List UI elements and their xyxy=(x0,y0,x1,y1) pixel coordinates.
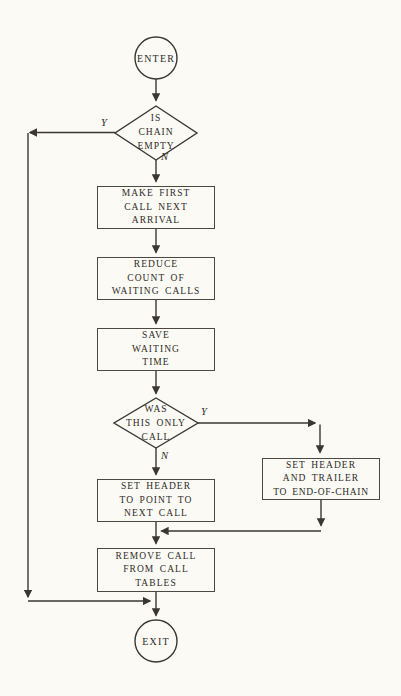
decision-line: CHAIN xyxy=(138,125,173,139)
process-line: SET HEADER xyxy=(286,459,356,473)
decision-chain-empty: IS CHAIN EMPTY xyxy=(114,106,198,158)
decision-line: WAS xyxy=(144,402,167,416)
process-line: TABLES xyxy=(135,577,176,591)
process-line: SAVE xyxy=(142,329,170,343)
process-line: REDUCE xyxy=(134,258,178,272)
process-line: FROM CALL xyxy=(123,563,189,577)
process-set-header-trailer: SET HEADER AND TRAILER TO END-OF-CHAIN xyxy=(262,458,380,500)
label-chain-empty-no: N xyxy=(161,151,168,162)
decision-line: CALL xyxy=(142,430,171,444)
label-only-call-no: N xyxy=(161,450,168,461)
enter-terminal: ENTER xyxy=(135,37,177,79)
decision-line: THIS ONLY xyxy=(126,416,186,430)
enter-label: ENTER xyxy=(137,53,175,64)
process-line: TO POINT TO xyxy=(120,494,193,508)
process-line: NEXT CALL xyxy=(124,507,188,521)
label-only-call-yes: Y xyxy=(201,406,207,417)
process-line: WAITING CALLS xyxy=(112,285,201,299)
process-line: REMOVE CALL xyxy=(116,550,197,564)
process-make-first-call: MAKE FIRST CALL NEXT ARRIVAL xyxy=(97,186,215,229)
process-line: TIME xyxy=(142,356,169,370)
decision-line: IS xyxy=(151,111,161,125)
exit-label: EXIT xyxy=(142,636,170,647)
flowchart-canvas: ENTER EXIT IS CHAIN EMPTY MAKE FIRST CAL… xyxy=(0,0,401,696)
process-set-header-point: SET HEADER TO POINT TO NEXT CALL xyxy=(97,479,215,522)
exit-terminal: EXIT xyxy=(135,620,177,662)
process-line: TO END-OF-CHAIN xyxy=(273,486,368,500)
process-line: COUNT OF xyxy=(127,272,184,286)
process-line: WAITING xyxy=(132,343,180,357)
process-line: CALL NEXT xyxy=(124,201,188,215)
process-remove-call: REMOVE CALL FROM CALL TABLES xyxy=(97,548,215,592)
process-save-waiting-time: SAVE WAITING TIME xyxy=(97,328,215,371)
decision-only-call: WAS THIS ONLY CALL xyxy=(114,398,198,448)
process-line: MAKE FIRST xyxy=(122,187,191,201)
label-chain-empty-yes: Y xyxy=(101,117,107,128)
process-line: AND TRAILER xyxy=(283,472,359,486)
decision-line: EMPTY xyxy=(137,139,174,153)
process-line: ARRIVAL xyxy=(132,214,180,228)
process-reduce-count: REDUCE COUNT OF WAITING CALLS xyxy=(97,257,215,300)
process-line: SET HEADER xyxy=(121,480,191,494)
